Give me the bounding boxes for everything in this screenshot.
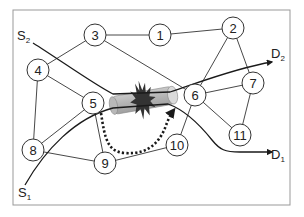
node-11: 11 — [229, 124, 251, 146]
node-label: 2 — [229, 21, 236, 36]
node-label: 8 — [29, 143, 36, 158]
node-10: 10 — [166, 134, 188, 156]
node-label: 1 — [156, 28, 163, 43]
node-7: 7 — [242, 72, 264, 94]
node-label: 4 — [34, 63, 41, 78]
node-label: 5 — [89, 96, 96, 111]
node-2: 2 — [222, 17, 244, 39]
network-diagram: 1234567891011 S2S1D2D1 — [0, 0, 304, 217]
node-9: 9 — [94, 152, 116, 174]
node-6: 6 — [184, 84, 206, 106]
node-8: 8 — [22, 139, 44, 161]
node-1: 1 — [149, 24, 171, 46]
node-label: 3 — [91, 28, 98, 43]
node-4: 4 — [27, 59, 49, 81]
node-label: 7 — [249, 76, 256, 91]
node-3: 3 — [84, 24, 106, 46]
node-label: 6 — [191, 88, 198, 103]
node-label: 11 — [233, 128, 247, 143]
node-label: 10 — [170, 138, 184, 153]
node-label: 9 — [101, 156, 108, 171]
node-5: 5 — [82, 92, 104, 114]
